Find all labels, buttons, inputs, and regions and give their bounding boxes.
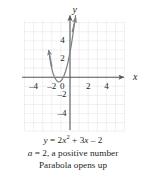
x-axis-label: x — [132, 71, 138, 82]
caption-line-3: Parabola opens up — [0, 159, 146, 172]
svg-text:2: 2 — [86, 81, 91, 91]
svg-text:4: 4 — [60, 35, 65, 45]
caption-equation: y = 2x2 + 3x – 2 — [0, 134, 146, 147]
equation-minus: – — [88, 135, 97, 145]
svg-text:4: 4 — [104, 81, 109, 91]
svg-text:–4: –4 — [57, 108, 68, 118]
y-tick-labels: 4 2 –2 –4 — [57, 35, 68, 118]
figure-caption: y = 2x2 + 3x – 2 a = 2, a positive numbe… — [0, 134, 146, 172]
equation-plus: + — [70, 135, 80, 145]
equation-eq: = — [48, 135, 58, 145]
coefficient-a-description: = 2, a positive number — [32, 148, 118, 158]
caption-line-2: a = 2, a positive number — [0, 147, 146, 160]
svg-text:–2: –2 — [46, 81, 56, 91]
svg-text:2: 2 — [60, 53, 65, 63]
parabola-curve — [49, 16, 75, 82]
x-tick-labels: –4 –2 0 2 4 — [28, 81, 109, 91]
grid-lines — [25, 21, 125, 131]
y-axis-label: y — [72, 4, 78, 15]
equation-constant: 2 — [98, 135, 103, 145]
parabola-figure: y x –4 –2 0 2 4 4 2 –2 –4 — [0, 0, 146, 136]
svg-text:–4: –4 — [28, 81, 39, 91]
svg-text:–2: –2 — [57, 89, 67, 99]
